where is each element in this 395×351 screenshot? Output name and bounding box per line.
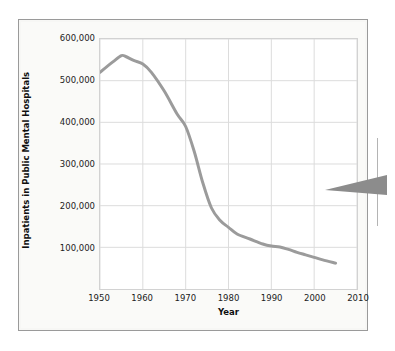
y-axis-tick-label: 100,000 (60, 244, 95, 253)
y-axis-tick-label: 200,000 (60, 202, 95, 211)
y-axis-tick-label: 300,000 (60, 160, 95, 169)
y-axis-tick-label: 600,000 (60, 34, 95, 43)
figure-root: Inpatients in Public Mental Hospitals 10… (0, 0, 395, 351)
callout-arrow (325, 175, 395, 197)
x-axis-title: Year (99, 308, 358, 317)
x-axis-tick-label: 1970 (175, 294, 197, 303)
y-axis-tick-label: 500,000 (60, 76, 95, 85)
x-axis-tick-label: 2000 (304, 294, 326, 303)
callout-arrow-shape (325, 175, 395, 197)
y-axis-tick-labels: 100,000200,000300,000400,000500,000600,0… (34, 38, 95, 290)
x-axis-tick-label: 2010 (347, 294, 369, 303)
x-axis-tick-label: 1950 (88, 294, 110, 303)
y-axis-tick-label: 400,000 (60, 118, 95, 127)
plot-area (99, 38, 358, 290)
y-axis-title: Inpatients in Public Mental Hospitals (22, 60, 31, 260)
x-axis-tick-label: 1980 (218, 294, 240, 303)
line-chart-canvas (100, 39, 357, 289)
data-series-line (100, 55, 336, 263)
x-axis-tick-labels: 1950196019701980199020002010 (99, 294, 358, 308)
x-axis-tick-label: 1960 (131, 294, 153, 303)
x-axis-tick-label: 1990 (261, 294, 283, 303)
